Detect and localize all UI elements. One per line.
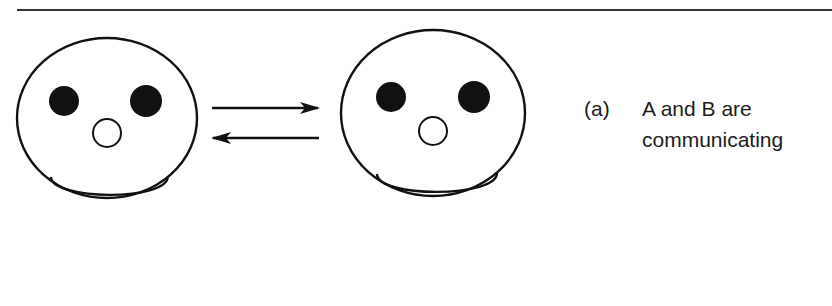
caption-text: A and B are communicating (642, 93, 783, 155)
caption-line-2: communicating (642, 124, 783, 155)
face-b-right-eye (458, 81, 490, 113)
face-a-smile (51, 176, 168, 195)
figure-caption: (a) A and B are communicating (584, 93, 783, 155)
face-a-left-eye (49, 86, 79, 116)
caption-label: (a) (584, 93, 642, 155)
face-b-outline (341, 30, 525, 196)
face-a-right-eye (130, 85, 162, 117)
face-b-mouth (419, 117, 447, 145)
face-b (341, 30, 525, 196)
face-b-left-eye (376, 82, 406, 112)
face-a (17, 38, 197, 198)
face-a-mouth (93, 119, 121, 147)
caption-line-1: A and B are (642, 93, 783, 124)
